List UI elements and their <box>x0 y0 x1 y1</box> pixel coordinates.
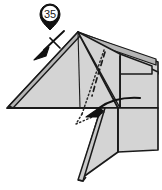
repeat-arrow-head <box>34 47 49 60</box>
paper-model <box>7 32 158 181</box>
paper-panel-lower-right <box>118 108 158 152</box>
origami-illustration: 35 <box>0 0 162 190</box>
origami-diagram-figure: 35 <box>0 0 162 190</box>
step-number-marker: 35 <box>40 4 60 30</box>
step-number-label: 35 <box>44 8 56 20</box>
repeat-arrow-shaft <box>44 31 64 50</box>
